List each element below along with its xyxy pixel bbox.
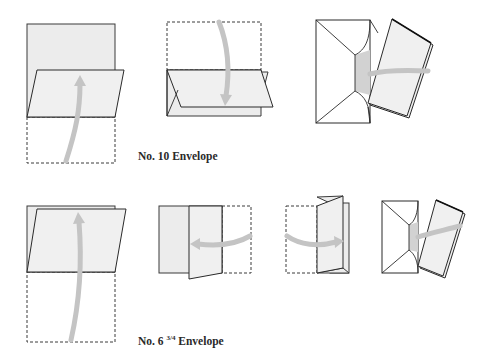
- original-position-outline: [167, 22, 261, 70]
- step-3-fold-left-right: [286, 196, 349, 273]
- step-2-fold-top-down: [167, 22, 273, 116]
- caption-no6-3-4-envelope: No. 6 3/4 Envelope: [138, 334, 224, 347]
- step-1-fold-bottom-up: [27, 206, 126, 342]
- step-2-fold-right-left: [159, 206, 251, 279]
- caption-fraction: 3/4: [166, 334, 175, 342]
- folded-flap: [167, 70, 273, 107]
- folded-letter-top: [368, 19, 431, 116]
- step-4-insert-envelope: [382, 200, 465, 278]
- step-1-fold-bottom-up: [27, 24, 124, 163]
- folding-diagram: [0, 0, 486, 362]
- step-3-insert-envelope: [316, 19, 433, 123]
- caption-no10-envelope: No. 10 Envelope: [138, 150, 218, 162]
- folded-flap: [27, 70, 124, 117]
- folded-flap: [317, 196, 343, 273]
- envelope-opening: [355, 50, 370, 95]
